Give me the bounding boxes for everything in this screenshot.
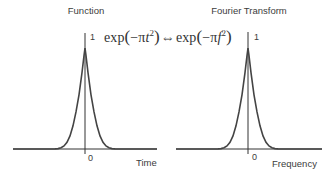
right-peak-label: 1 [254,32,259,42]
left-peak-label: 1 [90,32,95,42]
right-x-axis-label: Frequency [272,158,317,169]
left-x-axis-label: Time [136,157,157,168]
right-gaussian-curve [176,48,322,149]
right-origin-label: 0 [252,152,257,162]
left-origin-label: 0 [88,153,93,163]
gaussian-plots [0,0,332,175]
